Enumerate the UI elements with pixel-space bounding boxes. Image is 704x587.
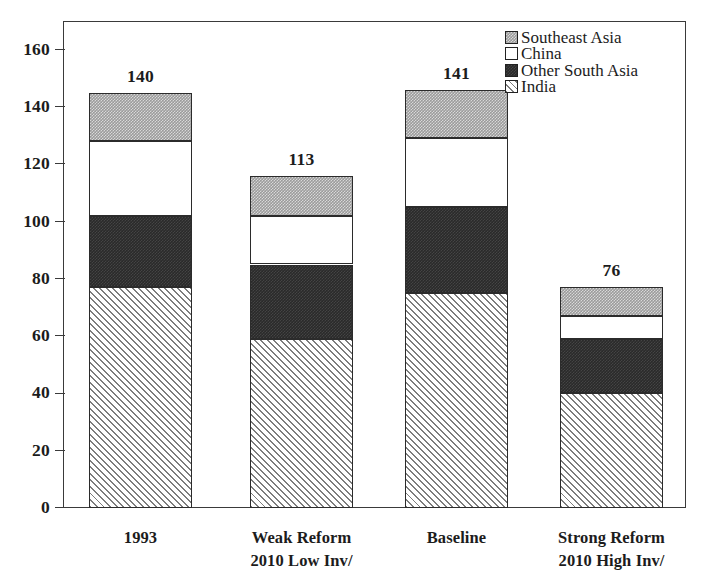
- legend-item-label: India: [521, 78, 556, 95]
- y-axis-tick-label: 40: [2, 382, 50, 403]
- y-axis-tick: [55, 221, 65, 222]
- chart-page: 020406080100120140160 14011314176 1993We…: [0, 0, 704, 587]
- x-axis-label-line: 1993: [61, 526, 220, 549]
- bar-segment[interactable]: [560, 316, 663, 339]
- y-axis-tick-label: 160: [2, 39, 50, 60]
- bar-segment[interactable]: [89, 141, 192, 215]
- x-axis-label-line: Baseline: [377, 526, 536, 549]
- x-axis-category-label: Strong Reform2010 High Inv/: [532, 526, 691, 573]
- x-axis-category-label: Weak Reform2010 Low Inv/: [222, 526, 381, 573]
- y-axis-tick-label: 0: [2, 497, 50, 518]
- bar-segment[interactable]: [405, 207, 508, 293]
- y-axis-tick: [55, 106, 65, 107]
- bar-value-label: 140: [89, 66, 192, 87]
- bar-segment[interactable]: [89, 93, 192, 142]
- x-axis-category-label: Baseline: [377, 526, 536, 549]
- y-axis-tick: [55, 278, 65, 279]
- y-axis-tick: [55, 393, 65, 394]
- bar-value-label: 113: [250, 149, 353, 170]
- bar-segment[interactable]: [89, 216, 192, 288]
- bar-value-label: 76: [560, 260, 663, 281]
- legend-item-label: Other South Asia: [521, 62, 638, 79]
- bar-segment[interactable]: [405, 90, 508, 139]
- legend-swatch-icon: [505, 80, 518, 93]
- x-axis-label-line: Weak Reform: [222, 526, 381, 549]
- bar-segment[interactable]: [405, 138, 508, 207]
- bar-value-label: 141: [405, 63, 508, 84]
- bar-segment[interactable]: [250, 265, 353, 339]
- x-axis-category-label: 1993: [61, 526, 220, 549]
- bar-stack[interactable]: [250, 21, 353, 508]
- bar-segment[interactable]: [250, 216, 353, 265]
- legend-item[interactable]: Other South Asia: [505, 62, 638, 79]
- y-axis-tick: [55, 335, 65, 336]
- legend-item[interactable]: Southeast Asia: [505, 29, 638, 46]
- y-axis-tick: [55, 49, 65, 50]
- y-axis-tick-label: 80: [2, 268, 50, 289]
- legend-item[interactable]: India: [505, 79, 638, 96]
- legend-item-label: Southeast Asia: [521, 29, 622, 46]
- y-axis-tick-label: 120: [2, 153, 50, 174]
- legend-item[interactable]: China: [505, 46, 638, 63]
- bar-segment[interactable]: [560, 393, 663, 508]
- bar-segment[interactable]: [250, 339, 353, 508]
- bar-segment[interactable]: [89, 287, 192, 508]
- bar-segment[interactable]: [560, 287, 663, 316]
- bar-segment[interactable]: [560, 339, 663, 393]
- legend-swatch-icon: [505, 47, 518, 60]
- bar-segment[interactable]: [405, 293, 508, 508]
- bar-stack[interactable]: [405, 21, 508, 508]
- y-axis-tick-label: 140: [2, 96, 50, 117]
- legend-swatch-icon: [505, 31, 518, 44]
- x-axis-label-line: 2010 Low Inv/: [222, 549, 381, 572]
- y-axis-tick-label: 100: [2, 211, 50, 232]
- y-axis-tick-label: 60: [2, 325, 50, 346]
- y-axis-tick: [55, 450, 65, 451]
- x-axis-label-line: Strong Reform: [532, 526, 691, 549]
- bar-segment[interactable]: [250, 176, 353, 216]
- y-axis-tick: [55, 507, 65, 508]
- bar-stack[interactable]: [89, 21, 192, 508]
- chart-legend: Southeast AsiaChinaOther South AsiaIndia: [505, 29, 638, 95]
- legend-item-label: China: [521, 45, 562, 62]
- x-axis-label-line: 2010 High Inv/: [532, 549, 691, 572]
- legend-swatch-icon: [505, 64, 518, 77]
- y-axis-tick: [55, 163, 65, 164]
- y-axis-tick-label: 20: [2, 440, 50, 461]
